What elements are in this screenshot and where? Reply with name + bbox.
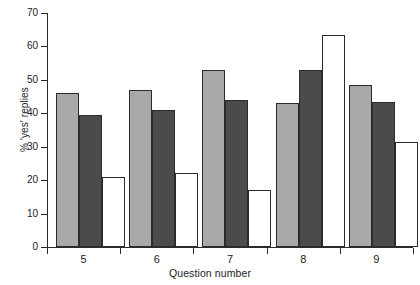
x-axis-separator-tick [340,248,341,254]
y-axis-tick-label: 50 [12,75,38,85]
x-axis-title: Question number [0,267,420,279]
bar [349,85,372,247]
y-axis-tick-label-text: 30 [14,142,38,152]
x-axis-group-label: 7 [210,253,250,265]
x-axis-line [47,247,413,248]
x-axis-separator-tick [47,248,48,254]
bar [102,177,125,247]
y-axis-tick-label: 20 [12,175,38,185]
x-axis-group-label: 5 [64,253,104,265]
bar [248,190,271,247]
x-axis-separator-tick [120,248,121,254]
x-axis-separator-tick [193,248,194,254]
plot-area [47,13,413,247]
y-axis-title: % 'yes' replies [19,45,30,195]
bar [322,35,345,247]
y-axis-tick-label-text: 40 [14,108,38,118]
bar [79,115,102,247]
x-axis-group-label: 6 [137,253,177,265]
y-axis-tick-label-text: 10 [14,209,38,219]
bar [56,93,79,247]
x-axis-separator-tick [267,248,268,254]
y-axis-tick-label: 30 [12,142,38,152]
bar [372,102,395,247]
bar [276,103,299,247]
x-axis-separator-tick [413,248,414,254]
bar [152,110,175,247]
y-axis-tick-label-text: 20 [14,175,38,185]
y-axis-tick-label: 0 [12,242,38,252]
bar [395,142,418,247]
x-axis-group-label: 9 [356,253,396,265]
y-axis-tick-label-text: 50 [14,75,38,85]
bar-chart: % 'yes' replies 010203040506070 56789 Qu… [0,0,420,285]
y-axis-tick-label-text: 70 [14,8,38,18]
y-axis-tick-label: 10 [12,209,38,219]
y-axis-tick-label: 40 [12,108,38,118]
y-axis-tick-label-text: 0 [14,242,38,252]
bar [129,90,152,247]
x-axis-group-label: 8 [283,253,323,265]
y-axis-tick-label: 60 [12,41,38,51]
y-axis-tick-label: 70 [12,8,38,18]
y-axis-tick-label-text: 60 [14,41,38,51]
bar [202,70,225,247]
bar [225,100,248,247]
bar [175,173,198,247]
bar [299,70,322,247]
